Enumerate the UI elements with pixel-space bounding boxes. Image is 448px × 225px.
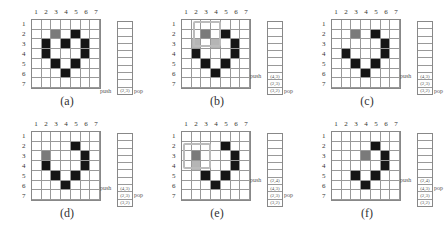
- stack-slot: [418, 170, 432, 177]
- column-number: 4: [61, 8, 71, 16]
- grid-cell: [240, 20, 250, 30]
- column-numbers: 1234567: [331, 8, 401, 16]
- panel-caption: (d): [0, 206, 134, 221]
- grid-cell: [71, 181, 81, 191]
- stack-slot: [268, 51, 282, 58]
- pop-label: pop: [434, 88, 443, 94]
- grid-cell: [51, 190, 61, 200]
- grid-cell: [42, 39, 52, 49]
- grid-cell: [381, 190, 391, 200]
- column-number: 7: [241, 120, 251, 128]
- row-number: 6: [22, 181, 26, 191]
- grid-cell: [390, 190, 400, 200]
- grid-cell: [211, 78, 221, 88]
- grid-cell: [361, 39, 371, 49]
- grid-cell: [182, 69, 192, 79]
- grid-cell: [71, 39, 81, 49]
- grid-cell: [351, 49, 361, 59]
- stack-slot: [418, 134, 432, 141]
- grid-cell: [81, 49, 91, 59]
- grid-cell: [192, 59, 202, 69]
- row-number: 5: [172, 59, 176, 69]
- grid-cell: [81, 161, 91, 171]
- grid-cell: [32, 20, 42, 30]
- grid-cell: [71, 190, 81, 200]
- column-number: 3: [351, 120, 361, 128]
- row-numbers: 1234567: [322, 131, 326, 201]
- column-numbers: 1234567: [331, 120, 401, 128]
- grid-cell: [90, 151, 100, 161]
- column-number: 4: [61, 120, 71, 128]
- grid-cell: [351, 181, 361, 191]
- grid-cell: [32, 69, 42, 79]
- grid-cell: [71, 59, 81, 69]
- row-number: 4: [172, 161, 176, 171]
- grid-cell: [240, 30, 250, 40]
- column-number: 1: [181, 120, 191, 128]
- grid-cell: [221, 69, 231, 79]
- pixel-grid: [331, 131, 401, 201]
- row-number: 5: [322, 171, 326, 181]
- grid-cell: [221, 142, 231, 152]
- grid-cell: [90, 181, 100, 191]
- pop-label: pop: [134, 192, 143, 198]
- grid-cell: [71, 142, 81, 152]
- stack-slot: (2,3): [268, 192, 282, 199]
- stack-slot: [268, 134, 282, 141]
- grid-cell: [342, 39, 352, 49]
- grid-cell: [351, 142, 361, 152]
- row-number: 3: [22, 151, 26, 161]
- grid-cell: [390, 171, 400, 181]
- grid-cell: [201, 132, 211, 142]
- column-number: 1: [181, 8, 191, 16]
- grid-cell: [51, 78, 61, 88]
- grid-cell: [361, 142, 371, 152]
- grid-cell: [390, 20, 400, 30]
- grid-cell: [240, 161, 250, 171]
- row-number: 4: [322, 161, 326, 171]
- grid-cell: [240, 59, 250, 69]
- column-number: 6: [231, 8, 241, 16]
- grid-cell: [371, 30, 381, 40]
- stack-slot: [118, 134, 132, 141]
- column-number: 1: [331, 120, 341, 128]
- grid-cell: [201, 78, 211, 88]
- grid-cell: [211, 49, 221, 59]
- column-number: 6: [381, 120, 391, 128]
- panel-caption: (f): [300, 206, 434, 221]
- stack-slot: (2,4): [418, 178, 432, 185]
- column-number: 7: [91, 120, 101, 128]
- grid-cell: [42, 59, 52, 69]
- grid-cell: [231, 20, 241, 30]
- grid-cell: [371, 171, 381, 181]
- grid-cell: [231, 142, 241, 152]
- grid-cell: [42, 190, 52, 200]
- column-number: 5: [371, 8, 381, 16]
- stack-slot: [268, 163, 282, 170]
- grid-cell: [231, 49, 241, 59]
- stack-slot: (4,3): [268, 185, 282, 192]
- stack-slot: [118, 22, 132, 29]
- grid-cell: [71, 78, 81, 88]
- column-number: 1: [31, 120, 41, 128]
- grid-cell: [182, 59, 192, 69]
- stack-slot: [418, 66, 432, 73]
- stack-slot: [118, 44, 132, 51]
- grid-cell: [221, 132, 231, 142]
- grid-cell: [342, 30, 352, 40]
- grid-cell: [361, 78, 371, 88]
- grid-cell: [51, 132, 61, 142]
- grid-cell: [371, 190, 381, 200]
- grid-cell: [332, 190, 342, 200]
- push-label: push: [100, 185, 111, 191]
- grid-cell: [221, 20, 231, 30]
- grid-cell: [332, 142, 342, 152]
- stack-slot: [118, 141, 132, 148]
- grid-cell: [71, 151, 81, 161]
- grid-cell: [221, 151, 231, 161]
- grid-cell: [381, 78, 391, 88]
- grid-cell: [32, 161, 42, 171]
- panel-a: 12345671234567(2,3)pushpop(a): [0, 0, 150, 112]
- grid-cell: [371, 142, 381, 152]
- grid-cell: [351, 190, 361, 200]
